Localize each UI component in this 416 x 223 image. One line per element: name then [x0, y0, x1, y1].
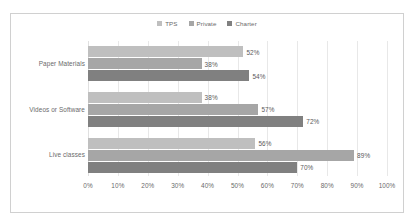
bar-row: 38% [88, 92, 387, 103]
x-axis-tick-label: 60% [261, 182, 274, 189]
category-axis-label: Paper Materials [39, 60, 85, 67]
legend-label-tps: TPS [165, 20, 177, 27]
bar-group: 52%38%54% [88, 41, 387, 87]
bar-row: 54% [88, 70, 387, 81]
bar-group: 56%89%70% [88, 132, 387, 178]
bar-value-label: 89% [357, 152, 370, 159]
category-axis-label: Live classes [49, 151, 85, 158]
bar-value-label: 56% [258, 140, 271, 147]
legend-swatch-tps-icon [157, 21, 162, 26]
bar-row: 52% [88, 46, 387, 57]
x-axis-tick-label: 40% [201, 182, 214, 189]
bar-value-label: 72% [306, 118, 319, 125]
legend-entry-tps: TPS [157, 20, 177, 27]
bar-row: 89% [88, 150, 387, 161]
bar[interactable] [88, 104, 258, 115]
chart-container: TPS Private Charter Paper MaterialsVideo… [10, 13, 404, 213]
bar-row: 70% [88, 162, 387, 173]
bar-value-label: 54% [252, 72, 265, 79]
bar-value-label: 38% [205, 60, 218, 67]
bar-group: 38%57%72% [88, 87, 387, 133]
bar-row: 38% [88, 58, 387, 69]
bar[interactable] [88, 70, 249, 81]
bar[interactable] [88, 162, 297, 173]
category-axis: Paper MaterialsVideos or SoftwareLive cl… [25, 41, 85, 176]
bar[interactable] [88, 116, 303, 127]
x-axis-tick-label: 10% [111, 182, 124, 189]
legend-entry-private: Private [189, 20, 217, 27]
legend-entry-charter: Charter [227, 20, 256, 27]
legend-swatch-charter-icon [227, 21, 232, 26]
bar-value-label: 57% [261, 106, 274, 113]
bar[interactable] [88, 46, 243, 57]
x-axis-tick-label: 80% [321, 182, 334, 189]
x-axis-tick-label: 90% [351, 182, 364, 189]
bar-value-label: 52% [246, 48, 259, 55]
x-axis-tick-label: 20% [141, 182, 154, 189]
bar-groups: 52%38%54%38%57%72%56%89%70% [88, 41, 387, 176]
bar-value-label: 38% [205, 94, 218, 101]
bar[interactable] [88, 138, 255, 149]
plot-area: 52%38%54%38%57%72%56%89%70% [88, 41, 387, 176]
legend-label-private: Private [197, 20, 217, 27]
x-axis-tick-label: 30% [171, 182, 184, 189]
bar[interactable] [88, 92, 202, 103]
x-axis: 0%10%20%30%40%50%60%70%80%90%100% [88, 182, 387, 194]
legend-label-charter: Charter [235, 20, 256, 27]
category-axis-label: Videos or Software [29, 106, 85, 113]
bar[interactable] [88, 150, 354, 161]
bar-row: 72% [88, 116, 387, 127]
x-axis-tick-label: 100% [379, 182, 396, 189]
bar-row: 57% [88, 104, 387, 115]
bar-row: 56% [88, 138, 387, 149]
chart-legend: TPS Private Charter [11, 20, 403, 27]
bar-value-label: 70% [300, 164, 313, 171]
x-axis-tick-label: 70% [291, 182, 304, 189]
x-axis-tick-label: 50% [231, 182, 244, 189]
legend-swatch-private-icon [189, 21, 194, 26]
bar[interactable] [88, 58, 202, 69]
x-axis-tick-label: 0% [83, 182, 92, 189]
gridline [387, 41, 388, 176]
